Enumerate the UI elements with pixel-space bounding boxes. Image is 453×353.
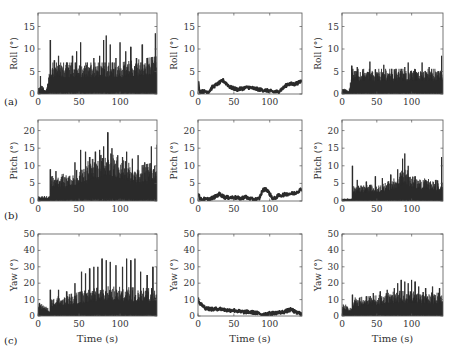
y-tick-label: 10 xyxy=(24,161,36,171)
data-trace xyxy=(198,297,302,315)
y-tick-label: 5 xyxy=(189,67,195,77)
x-tick-label: 50 xyxy=(371,204,383,214)
data-trace xyxy=(342,280,443,316)
data-trace xyxy=(38,259,157,316)
y-tick-label: 5 xyxy=(189,178,195,188)
data-trace xyxy=(38,33,157,94)
data-trace xyxy=(342,56,443,94)
y-tick-label: 20 xyxy=(24,126,36,136)
x-tick-label: 0 xyxy=(35,319,41,329)
x-tick-label: 50 xyxy=(228,319,240,329)
panel-label-a: (a) xyxy=(4,96,18,107)
subplot-b3: 05101520050100Pitch (°) xyxy=(313,120,443,214)
axes-box xyxy=(198,234,302,316)
x-tick-label: 50 xyxy=(73,97,85,107)
x-tick-label: 100 xyxy=(111,97,128,107)
y-tick-label: 15 xyxy=(184,22,196,32)
y-tick-label: 40 xyxy=(184,245,196,255)
x-tick-label: 100 xyxy=(261,97,278,107)
x-tick-label: 0 xyxy=(195,319,201,329)
y-axis-label: Yaw (°) xyxy=(9,259,19,293)
y-tick-label: 5 xyxy=(333,67,339,77)
panel-label-b: (b) xyxy=(4,210,18,221)
x-tick-label: 100 xyxy=(403,204,420,214)
x-tick-label: 50 xyxy=(228,204,240,214)
x-tick-label: 100 xyxy=(261,319,278,329)
panel-label-c: (c) xyxy=(4,335,17,346)
y-tick-label: 30 xyxy=(184,262,196,272)
subplot-b1: 05101520050100Pitch (°) xyxy=(9,120,157,214)
subplot-a2: 051015050100Roll (°) xyxy=(169,13,302,107)
x-tick-label: 100 xyxy=(111,319,128,329)
y-tick-label: 10 xyxy=(184,295,196,305)
figure-canvas: 051015050100Roll (°)051015050100Roll (°)… xyxy=(0,0,453,353)
y-axis-label: Pitch (°) xyxy=(313,142,323,180)
y-tick-label: 15 xyxy=(328,22,340,32)
y-tick-label: 30 xyxy=(24,262,36,272)
y-tick-label: 10 xyxy=(24,295,36,305)
data-trace xyxy=(198,79,302,93)
y-tick-label: 15 xyxy=(184,143,196,153)
subplot-c3: 01020304050050100Yaw (°)Time (s) xyxy=(313,229,443,344)
y-tick-label: 15 xyxy=(328,143,340,153)
y-tick-label: 5 xyxy=(333,178,339,188)
x-tick-label: 0 xyxy=(339,97,345,107)
x-tick-label: 0 xyxy=(339,319,345,329)
x-tick-label: 0 xyxy=(35,204,41,214)
x-tick-label: 50 xyxy=(73,319,85,329)
x-tick-label: 50 xyxy=(73,204,85,214)
y-axis-label: Pitch (°) xyxy=(9,142,19,180)
x-tick-label: 0 xyxy=(195,204,201,214)
y-tick-label: 10 xyxy=(328,44,340,54)
y-tick-label: 20 xyxy=(328,126,340,136)
y-tick-label: 40 xyxy=(24,245,36,255)
y-tick-label: 10 xyxy=(184,161,196,171)
y-tick-label: 40 xyxy=(328,245,340,255)
x-tick-label: 0 xyxy=(195,97,201,107)
y-tick-label: 50 xyxy=(24,229,36,239)
subplot-c2: 01020304050050100Yaw (°)Time (s) xyxy=(169,229,302,344)
y-tick-label: 50 xyxy=(328,229,340,239)
x-tick-label: 100 xyxy=(403,97,420,107)
subplot-b2: 05101520050100Pitch (°) xyxy=(169,120,302,214)
y-axis-label: Yaw (°) xyxy=(169,259,179,293)
x-tick-label: 100 xyxy=(403,319,420,329)
axes-box xyxy=(198,13,302,94)
y-tick-label: 20 xyxy=(184,126,196,136)
data-trace xyxy=(38,132,157,201)
y-axis-label: Roll (°) xyxy=(313,37,323,69)
x-tick-label: 100 xyxy=(111,204,128,214)
x-tick-label: 50 xyxy=(228,97,240,107)
y-tick-label: 10 xyxy=(328,295,340,305)
y-axis-label: Yaw (°) xyxy=(313,259,323,293)
y-axis-label: Pitch (°) xyxy=(169,142,179,180)
y-tick-label: 20 xyxy=(184,278,196,288)
y-tick-label: 20 xyxy=(328,278,340,288)
subplot-c1: 01020304050050100Yaw (°)Time (s) xyxy=(9,229,157,344)
y-axis-label: Roll (°) xyxy=(169,37,179,69)
x-tick-label: 50 xyxy=(371,319,383,329)
y-tick-label: 30 xyxy=(328,262,340,272)
x-tick-label: 50 xyxy=(371,97,383,107)
y-tick-label: 50 xyxy=(184,229,196,239)
y-tick-label: 5 xyxy=(29,178,35,188)
y-tick-label: 10 xyxy=(24,44,36,54)
y-tick-label: 15 xyxy=(24,22,36,32)
x-tick-label: 0 xyxy=(339,204,345,214)
x-axis-label: Time (s) xyxy=(229,333,270,344)
y-tick-label: 15 xyxy=(24,143,36,153)
subplot-a3: 051015050100Roll (°) xyxy=(313,13,443,107)
y-tick-label: 10 xyxy=(184,44,196,54)
x-tick-label: 100 xyxy=(261,204,278,214)
x-tick-label: 0 xyxy=(35,97,41,107)
data-trace xyxy=(198,188,302,201)
y-tick-label: 10 xyxy=(328,161,340,171)
y-tick-label: 5 xyxy=(29,67,35,77)
data-trace xyxy=(342,154,443,202)
y-tick-label: 20 xyxy=(24,278,36,288)
x-axis-label: Time (s) xyxy=(372,333,413,344)
y-axis-label: Roll (°) xyxy=(9,37,19,69)
x-axis-label: Time (s) xyxy=(77,333,118,344)
axes-box xyxy=(198,120,302,201)
subplot-a1: 051015050100Roll (°) xyxy=(9,13,157,107)
